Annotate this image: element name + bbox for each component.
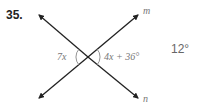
line-m-label: m <box>143 5 150 16</box>
intersecting-lines-diagram <box>0 0 198 107</box>
line-n-label: n <box>143 93 148 104</box>
left-angle-arc <box>76 49 79 65</box>
line-m-lower <box>39 57 88 98</box>
right-angle-label: 4x + 36° <box>104 51 139 62</box>
right-angle-arc <box>97 49 100 65</box>
line-n <box>88 57 138 98</box>
answer-text: 12° <box>171 42 189 56</box>
left-angle-label: 7x <box>57 51 66 62</box>
